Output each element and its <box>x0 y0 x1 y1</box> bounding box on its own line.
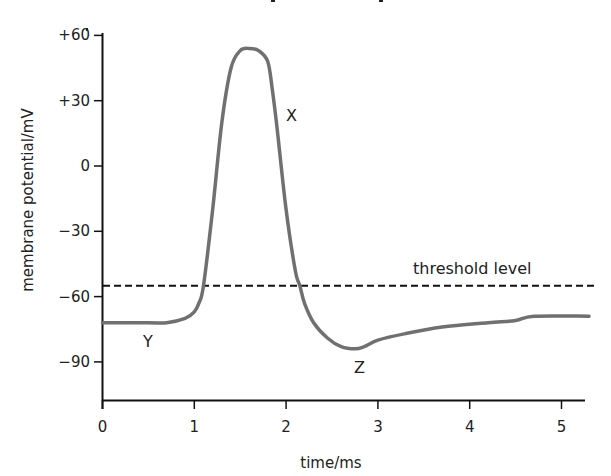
y-tick-label: +60 <box>58 26 90 44</box>
x-tick-label: 0 <box>98 418 108 436</box>
x-tick-label: 1 <box>190 418 200 436</box>
y-tick-label: +30 <box>58 92 90 110</box>
y-tick-label: −60 <box>58 288 90 306</box>
threshold-label: threshold level <box>413 259 531 278</box>
action-potential-chart: +60+300−30−60−90 012345 threshold level … <box>0 0 611 476</box>
y-tick-label: 0 <box>80 157 90 175</box>
x-axis-ticks: 012345 <box>98 400 567 436</box>
y-tick-label: −30 <box>58 222 90 240</box>
action-potential-curve <box>103 48 590 349</box>
x-tick-label: 2 <box>281 418 291 436</box>
y-tick-label: −90 <box>58 353 90 371</box>
x-tick-label: 5 <box>557 418 567 436</box>
x-tick-label: 3 <box>373 418 383 436</box>
y-axis-title: membrane potential/mV <box>19 108 37 292</box>
x-tick-label: 4 <box>465 418 475 436</box>
label-y: Y <box>142 332 153 351</box>
label-x: X <box>286 106 297 125</box>
x-axis-title: time/ms <box>300 454 362 472</box>
cropped-title-fragment <box>86 0 383 31</box>
label-z: Z <box>354 358 365 377</box>
y-axis-ticks: +60+300−30−60−90 <box>58 26 102 371</box>
